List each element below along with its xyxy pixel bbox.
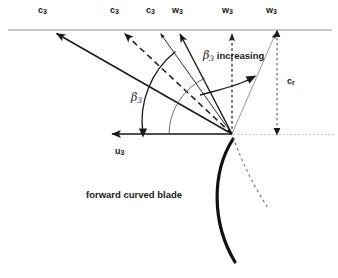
diagram-canvas xyxy=(0,0,338,278)
figure-caption: forward curved blade xyxy=(86,190,182,200)
c3-vector-2 xyxy=(125,34,233,135)
c3-label-2: c3 xyxy=(110,6,119,15)
w3-label-3: w3 xyxy=(266,6,277,15)
w3-label-2: w3 xyxy=(222,6,233,15)
c3-label-3: c3 xyxy=(146,6,155,15)
beta3-inner-arc xyxy=(169,78,205,134)
velocity-triangle-diagram: c3 c3 c3 w3 w3 w3 u3 cr β3 β3 increasing… xyxy=(0,0,338,278)
u3-label: u3 xyxy=(115,147,124,156)
blade-tangent-dashed xyxy=(233,137,268,208)
beta3-arc-arrowhead xyxy=(139,129,147,138)
blade-profile-arc xyxy=(217,139,235,262)
w3-label-1: w3 xyxy=(172,6,183,15)
c3-label-1: c3 xyxy=(38,6,47,15)
beta3-angle-label: β3 xyxy=(131,92,142,105)
beta3-increasing-label: β3 increasing xyxy=(203,50,264,63)
cr-label: cr xyxy=(287,77,295,86)
